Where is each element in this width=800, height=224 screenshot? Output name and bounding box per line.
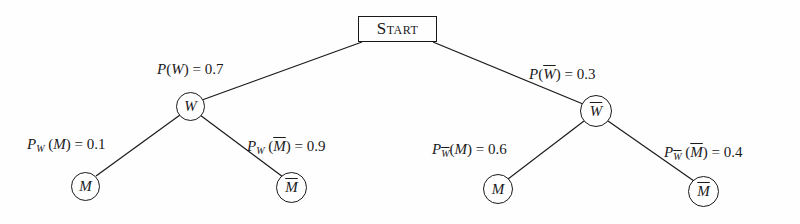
node-W-M: M: [71, 172, 100, 201]
node-not-W: W: [580, 95, 612, 127]
node-W-not-M-label: M: [285, 179, 298, 196]
node-W-not-M: M: [276, 172, 307, 203]
edge-label-P-not-W: P(W) = 0.3: [529, 67, 595, 82]
edge-start-to-W: [202, 42, 362, 100]
edge-label-PW-not-M: PW (M) = 0.9: [247, 139, 325, 156]
node-W-label: W: [184, 98, 197, 115]
edge-label-P-W: P(W) = 0.7: [157, 62, 223, 77]
node-notW-not-M: M: [688, 176, 719, 207]
edge-label-PnotW-M: PW(M) = 0.6: [432, 142, 507, 159]
node-notW-M-label: M: [492, 181, 505, 198]
edge-label-PnotW-not-M: PW (M) = 0.4: [664, 145, 742, 162]
node-notW-M: M: [483, 174, 513, 204]
edge-label-PW-M: PW (M) = 0.1: [27, 137, 105, 154]
edge-W-to-M: [96, 115, 180, 176]
start-label: Start: [377, 19, 419, 39]
node-W-M-label: M: [79, 178, 92, 195]
edge-notW-to-M: [508, 121, 584, 179]
node-notW-not-M-label: M: [697, 183, 710, 200]
node-not-W-label: W: [590, 103, 603, 120]
node-W: W: [176, 92, 205, 121]
start-node: Start: [358, 16, 437, 42]
